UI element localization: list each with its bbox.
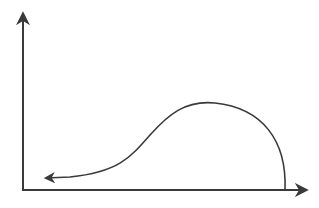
diagram xyxy=(0,0,319,208)
hump-curve xyxy=(46,103,285,190)
